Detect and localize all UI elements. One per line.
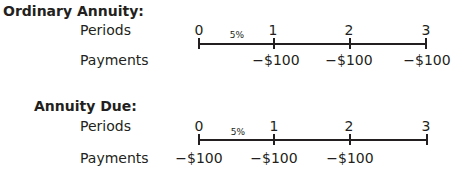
ordinary-timeline	[198, 43, 427, 45]
due-tick-0	[198, 134, 200, 145]
due-payment-1: −$100	[250, 150, 297, 166]
due-periods-label: Periods	[80, 118, 131, 134]
due-payment-0: −$100	[175, 150, 222, 166]
ordinary-tick-2	[349, 38, 351, 49]
due-tick-2	[349, 134, 351, 145]
ordinary-payments-label: Payments	[80, 52, 149, 68]
due-tick-1	[273, 134, 275, 145]
ordinary-payment-1: −$100	[252, 52, 299, 68]
due-payments-label: Payments	[80, 150, 149, 166]
ordinary-tick-1	[273, 38, 275, 49]
due-timeline	[198, 139, 427, 141]
ordinary-periods-label: Periods	[80, 22, 131, 38]
due-period-2: 2	[345, 118, 354, 134]
ordinary-rate: 5%	[230, 30, 244, 40]
due-period-3: 3	[422, 118, 431, 134]
ordinary-period-3: 3	[422, 22, 431, 38]
annuity-due-title: Annuity Due:	[34, 98, 137, 114]
ordinary-period-0: 0	[195, 22, 204, 38]
ordinary-annuity-title: Ordinary Annuity:	[3, 3, 144, 19]
due-period-1: 1	[270, 118, 279, 134]
ordinary-payment-2: −$100	[325, 52, 372, 68]
due-payment-2: −$100	[326, 150, 373, 166]
ordinary-period-1: 1	[269, 22, 278, 38]
ordinary-period-2: 2	[345, 22, 354, 38]
due-rate: 5%	[231, 127, 245, 137]
due-period-0: 0	[195, 118, 204, 134]
due-tick-3	[426, 134, 428, 145]
ordinary-tick-3	[425, 38, 427, 49]
ordinary-tick-0	[198, 38, 200, 49]
ordinary-payment-3: −$100	[403, 52, 450, 68]
